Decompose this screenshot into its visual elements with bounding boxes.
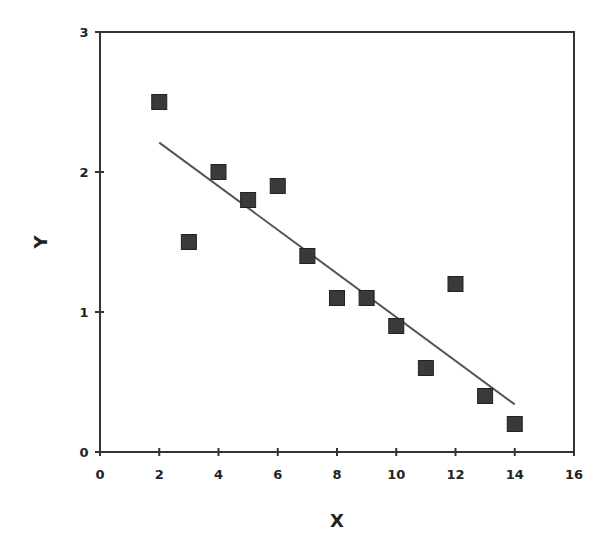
x-tick-label: 4	[214, 467, 223, 482]
data-point-marker	[418, 361, 433, 376]
x-tick-label: 6	[273, 467, 282, 482]
data-point-marker	[478, 389, 493, 404]
data-point-marker	[330, 291, 345, 306]
axis-ticks: 02468101214160123	[79, 25, 583, 482]
y-tick-label: 1	[79, 305, 88, 320]
data-point-marker	[181, 235, 196, 250]
y-tick-label: 3	[79, 25, 88, 40]
data-point-marker	[270, 179, 285, 194]
data-point-marker	[211, 165, 226, 180]
scatter-chart: 02468101214160123 X Y	[0, 0, 610, 554]
trendline	[159, 143, 515, 405]
data-point-marker	[448, 277, 463, 292]
plot-frame	[100, 32, 574, 452]
data-point-marker	[300, 249, 315, 264]
data-point-marker	[359, 291, 374, 306]
plot-border	[100, 32, 574, 452]
y-tick-label: 2	[79, 165, 88, 180]
data-point-marker	[152, 95, 167, 110]
y-tick-label: 0	[79, 445, 88, 460]
x-tick-label: 0	[95, 467, 104, 482]
x-tick-label: 10	[387, 467, 405, 482]
x-tick-label: 12	[446, 467, 464, 482]
data-point-marker	[389, 319, 404, 334]
y-axis-title: Y	[30, 235, 51, 250]
x-tick-label: 8	[332, 467, 341, 482]
x-tick-label: 2	[155, 467, 164, 482]
data-point-marker	[241, 193, 256, 208]
x-tick-label: 16	[565, 467, 583, 482]
data-point-marker	[507, 417, 522, 432]
x-tick-label: 14	[506, 467, 524, 482]
data-points	[152, 95, 523, 432]
x-axis-title: X	[330, 510, 344, 531]
